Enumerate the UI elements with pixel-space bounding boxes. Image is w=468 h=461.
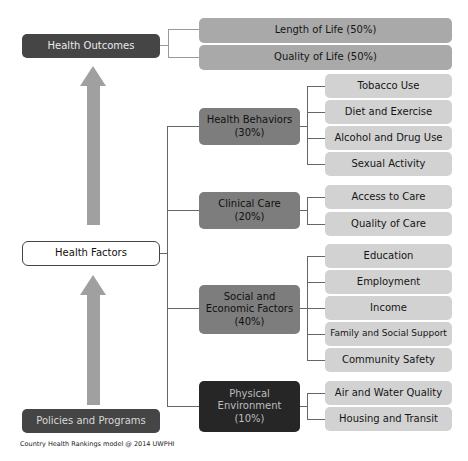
factor-weight: (40%) [206,316,293,329]
item-label: Access to Care [352,191,426,204]
connector [307,334,325,335]
item-label: Income [370,302,407,315]
connector [168,29,200,30]
connector [307,224,325,225]
outcome-quality-of-life: Quality of Life (50%) [199,45,452,70]
factor-clinical-care: Clinical Care (20%) [199,192,300,229]
item-employment: Employment [325,270,452,294]
caption-text: Country Health Rankings model @ 2014 UWP… [20,440,174,448]
item-label: Quality of Care [351,218,426,231]
item-housing-transit: Housing and Transit [325,407,452,431]
item-label: Tobacco Use [358,80,420,93]
factor-label: Social and [206,291,293,304]
item-quality-of-care: Quality of Care [325,212,452,236]
item-air-water-quality: Air and Water Quality [325,381,452,405]
item-diet-exercise: Diet and Exercise [325,100,452,124]
connector [307,138,325,139]
factor-label: Clinical Care [218,198,280,211]
connector [167,126,199,127]
item-sexual-activity: Sexual Activity [325,152,452,176]
outcome-length-of-life: Length of Life (50%) [199,18,452,43]
item-label: Education [364,250,414,263]
item-income: Income [325,296,452,320]
connector [167,406,199,407]
outcome-label: Quality of Life (50%) [274,51,377,64]
connector [307,256,325,257]
connector [167,210,199,211]
connector [167,308,199,309]
connector [307,164,325,165]
connector-trunk [167,126,168,407]
outcome-label: Length of Life (50%) [275,24,377,37]
connector [160,45,168,46]
item-community-safety: Community Safety [325,348,452,372]
connector [307,197,308,224]
item-label: Community Safety [342,354,435,367]
item-label: Family and Social Support [330,328,447,339]
connector [307,86,325,87]
connector [307,308,325,309]
factor-label: Environment [218,400,282,413]
item-access-to-care: Access to Care [325,185,452,209]
factor-weight: (20%) [218,211,280,224]
connector [307,282,325,283]
factor-label: Physical [218,388,282,401]
item-label: Air and Water Quality [335,387,442,400]
factor-social-economic: Social and Economic Factors (40%) [199,285,300,334]
connector [307,393,325,394]
health-outcomes-label: Health Outcomes [48,40,135,53]
item-alcohol-drug-use: Alcohol and Drug Use [325,126,452,150]
factor-label: Health Behaviors [207,114,293,127]
caption: Country Health Rankings model @ 2014 UWP… [20,440,174,448]
connector [168,29,169,57]
item-family-social-support: Family and Social Support [325,322,452,346]
health-outcomes-box: Health Outcomes [22,34,160,58]
policies-programs-box: Policies and Programs [22,409,160,433]
factor-label: Economic Factors [206,303,293,316]
health-factors-label: Health Factors [55,247,127,260]
policies-programs-label: Policies and Programs [36,415,146,428]
connector [307,197,325,198]
item-label: Sexual Activity [351,158,425,171]
item-label: Diet and Exercise [345,106,432,119]
connector [307,393,308,419]
connector [307,419,325,420]
item-tobacco-use: Tobacco Use [325,74,452,98]
connector [307,112,325,113]
factor-weight: (30%) [207,127,293,140]
factor-health-behaviors: Health Behaviors (30%) [199,108,300,145]
item-education: Education [325,244,452,268]
connector [307,86,308,164]
health-factors-box: Health Factors [22,241,160,266]
item-label: Housing and Transit [339,413,438,426]
factor-physical-environment: Physical Environment (10%) [199,381,300,432]
connector [168,57,200,58]
item-label: Alcohol and Drug Use [335,132,443,145]
item-label: Employment [357,276,420,289]
connector [307,360,325,361]
factor-weight: (10%) [218,413,282,426]
